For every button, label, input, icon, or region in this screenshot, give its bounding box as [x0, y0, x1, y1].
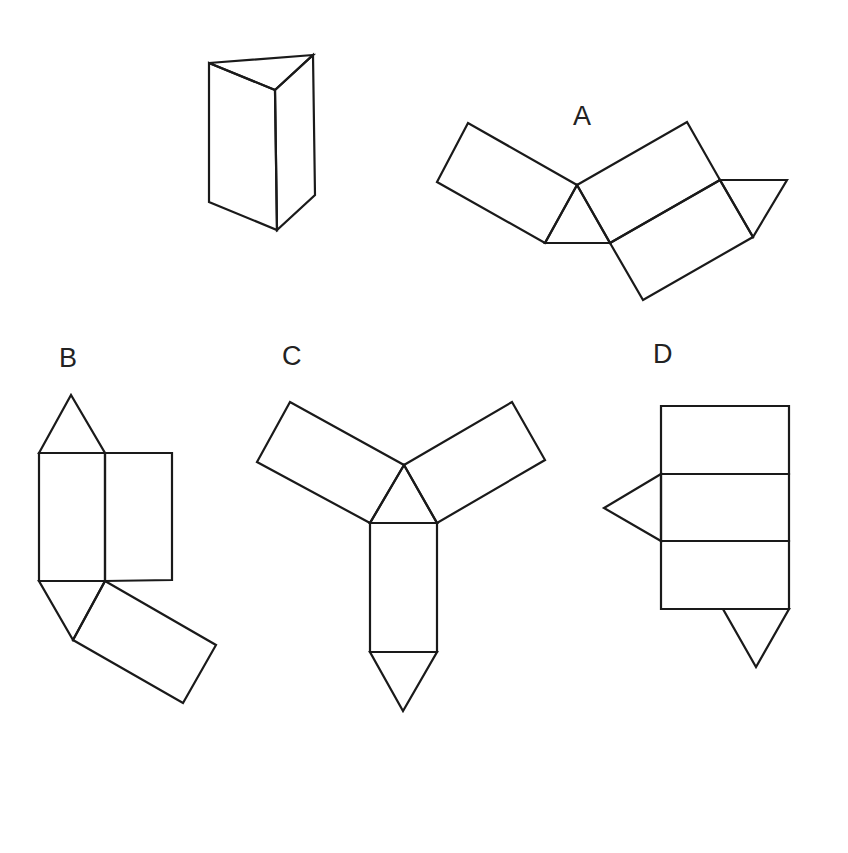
net-b-bottom-triangle — [39, 581, 105, 640]
net-c-bottom-triangle — [370, 652, 437, 711]
net-option-b[interactable]: B — [39, 343, 216, 703]
net-c-vertical-rectangle — [370, 523, 437, 652]
prism-left-face — [209, 63, 277, 230]
net-b-top-triangle — [39, 395, 105, 453]
option-d-label: D — [653, 339, 673, 369]
diagram-canvas: A B C D — [0, 0, 848, 853]
net-c-center-triangle — [370, 465, 437, 523]
net-d-middle-rectangle — [661, 474, 789, 541]
net-a-upper-rectangle — [577, 122, 720, 243]
triangular-prism-figure — [209, 55, 315, 230]
prism-right-face — [275, 55, 315, 230]
option-b-label: B — [59, 343, 77, 373]
net-a-right-triangle — [720, 180, 787, 237]
net-option-d[interactable]: D — [604, 339, 789, 667]
option-a-label: A — [573, 101, 591, 131]
net-a-center-triangle — [545, 185, 610, 243]
net-b-left-rectangle — [39, 453, 105, 581]
net-d-left-triangle — [604, 474, 661, 541]
net-b-right-rectangle — [105, 453, 172, 581]
net-option-c[interactable]: C — [257, 341, 545, 711]
net-b-slanted-rectangle — [73, 581, 216, 703]
net-d-top-rectangle — [661, 406, 789, 474]
net-option-a[interactable]: A — [437, 101, 787, 300]
option-c-label: C — [282, 341, 302, 371]
net-c-left-rectangle — [257, 402, 404, 523]
net-d-bottom-rectangle — [661, 541, 789, 609]
net-c-right-rectangle — [404, 402, 545, 523]
net-d-bottom-triangle — [723, 609, 789, 667]
